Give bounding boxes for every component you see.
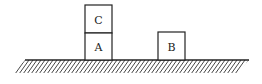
diagram-canvas: C A B	[0, 0, 262, 84]
block-b: B	[158, 32, 185, 60]
block-b-label: B	[167, 41, 175, 54]
block-a-label: A	[94, 41, 104, 54]
block-c: C	[85, 5, 112, 33]
block-c-label: C	[94, 14, 102, 27]
block-a: A	[85, 33, 112, 60]
ground-hatching	[0, 60, 262, 74]
